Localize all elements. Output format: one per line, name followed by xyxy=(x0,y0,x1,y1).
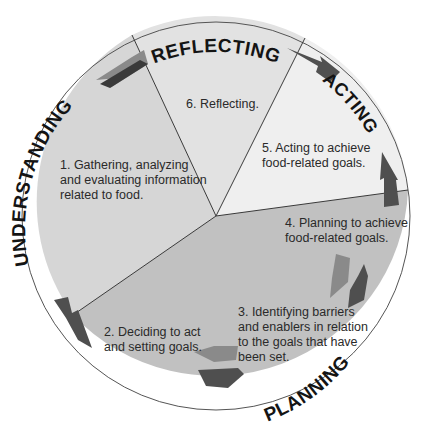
step-2-text: 2. Deciding to act and setting goals. xyxy=(104,325,204,354)
food-literacy-cycle-diagram: REFLECTING UNDERSTANDING ACTING PLANNING… xyxy=(0,0,424,435)
step-5-text: 5. Acting to achieve food-related goals. xyxy=(262,141,374,170)
step-6-text: 6. Reflecting. xyxy=(186,97,259,111)
